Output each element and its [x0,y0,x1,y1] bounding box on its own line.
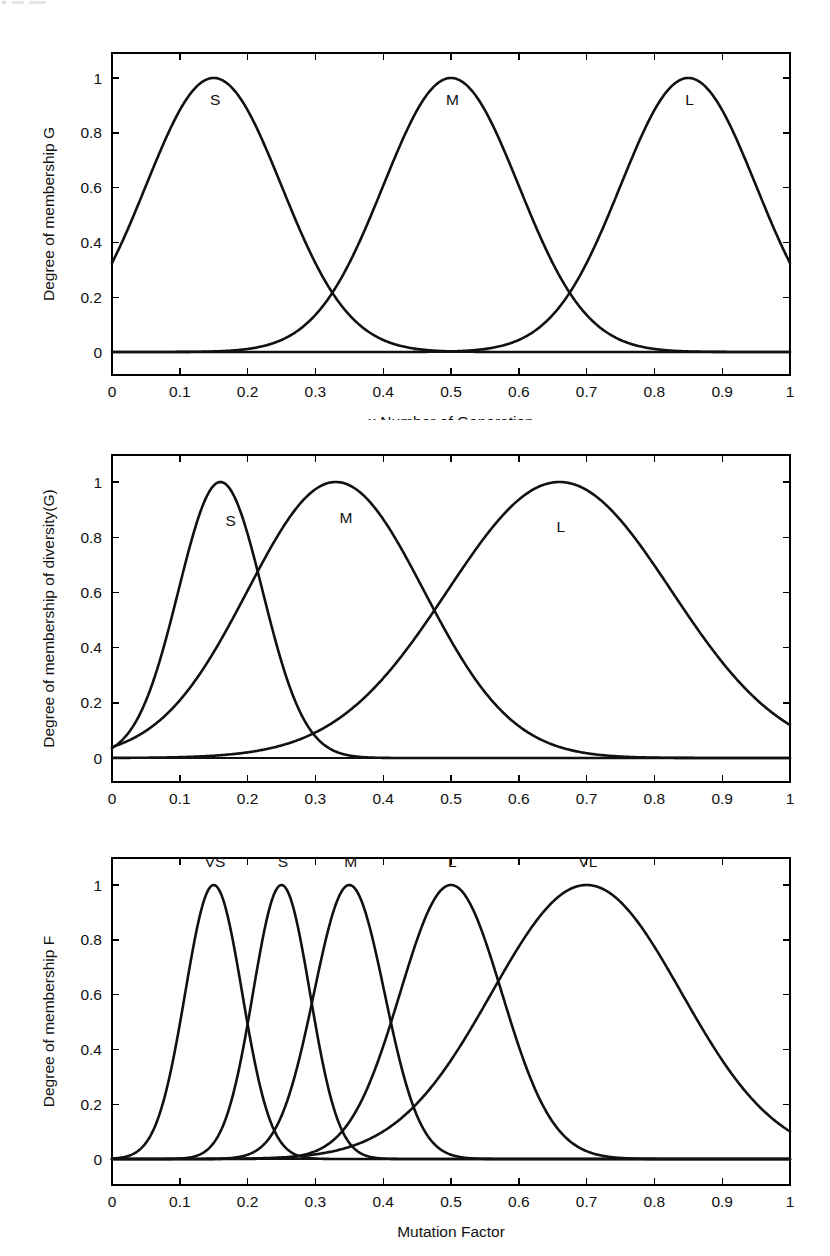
x-tick-label: 0.5 [440,1193,462,1210]
diversity-membership-plot: 00.10.20.30.40.50.60.70.80.9100.20.40.60… [0,400,830,810]
x-tick-label: 0.6 [508,1193,530,1210]
x-tick-label: 0.4 [372,1193,394,1210]
x-tick-label: 0.8 [644,1193,666,1210]
y-tick-label: 0.6 [80,986,102,1003]
y-tick-label: 0.4 [80,639,102,656]
y-axis-label: Degree of membership of diversity(G) [40,489,57,747]
y-tick-label: 0.8 [80,529,102,546]
membership-curve-vl [112,885,790,1159]
x-tick-label: 0.2 [237,383,259,400]
x-tick-label: 0.9 [711,383,733,400]
membership-curve-s [112,885,790,1159]
y-tick-label: 1 [93,474,102,491]
y-axis-label: Degree of membership G [40,127,57,301]
curve-labels: SML [225,509,565,534]
y-tick-label: 0.2 [80,694,102,711]
curve-label-m: M [446,91,459,108]
y-tick-label: 0.6 [80,584,102,601]
x-tick-label: 0.5 [440,383,462,400]
y-tick-label: 0.2 [80,289,102,306]
x-tick-label: 0.9 [711,1193,733,1210]
curve-label-m: M [339,509,352,526]
y-tick-label: 0.8 [80,124,102,141]
x-tick-label: 0.1 [169,1193,191,1210]
membership-curves [112,78,790,352]
x-tick-label: 0.6 [508,383,530,400]
plot-frame [112,455,790,782]
y-tick-label: 0.4 [80,1041,102,1058]
membership-curve-vs [112,885,790,1159]
curve-label-s: S [225,512,235,529]
membership-curve-s [112,482,790,758]
membership-curves [112,482,790,758]
y-tick-label: 0.2 [80,1096,102,1113]
curve-label-s: S [210,91,220,108]
curve-labels: VSSMLVL [205,853,598,870]
curve-label-vl: VL [578,853,597,870]
axis-ticks [112,858,790,1185]
x-tick-label: 0.7 [576,1193,598,1210]
generation-membership-plot: 00.10.20.30.40.50.60.70.80.9100.20.40.60… [0,0,830,420]
curve-label-l: L [448,853,457,870]
figure-page: 00.10.20.30.40.50.60.70.80.9100.20.40.60… [0,0,830,1256]
membership-curve-l [112,885,790,1159]
y-tick-label: 0.6 [80,179,102,196]
axis-ticks [112,455,790,782]
x-tick-label: 0.2 [237,1193,259,1210]
curve-labels: SML [210,91,694,108]
generation-membership-plot-canvas: 00.10.20.30.40.50.60.70.80.9100.20.40.60… [0,0,830,420]
curve-label-l: L [685,91,694,108]
membership-curve-m [112,885,790,1159]
x-tick-label: 0.3 [305,383,327,400]
x-tick-label: 0.8 [644,383,666,400]
x-tick-label: 0 [108,1193,117,1210]
x-tick-label: 0.1 [169,383,191,400]
membership-curve-m [112,482,790,758]
x-tick-label: 0.7 [576,383,598,400]
y-axis-label: Degree of membership F [40,936,57,1107]
y-tick-label: 1 [93,70,102,87]
x-tick-label: 1 [786,1193,795,1210]
membership-curve-l [112,482,790,758]
mutation-factor-membership-plot-canvas: 00.10.20.30.40.50.60.70.80.9100.20.40.60… [0,800,830,1256]
membership-curves [112,885,790,1159]
curve-label-l: L [557,518,566,535]
y-tick-labels: 00.20.40.60.81 [80,474,102,767]
x-tick-labels: 00.10.20.30.40.50.60.70.80.91 [108,1193,795,1210]
y-tick-label: 0.4 [80,234,102,251]
x-tick-label: 0.3 [305,1193,327,1210]
diversity-membership-plot-canvas: 00.10.20.30.40.50.60.70.80.9100.20.40.60… [0,400,830,810]
y-tick-label: 0 [93,344,102,361]
membership-curve-l [112,78,790,352]
curve-label-vs: VS [205,853,226,870]
y-tick-label: 0.8 [80,931,102,948]
mutation-factor-membership-plot: 00.10.20.30.40.50.60.70.80.9100.20.40.60… [0,800,830,1256]
y-tick-labels: 00.20.40.60.81 [80,877,102,1168]
y-tick-labels: 00.20.40.60.81 [80,70,102,361]
y-tick-label: 1 [93,877,102,894]
curve-label-s: S [278,853,288,870]
x-axis-label: Mutation Factor [397,1223,505,1240]
x-tick-label: 1 [786,383,795,400]
x-tick-labels: 00.10.20.30.40.50.60.70.80.91 [108,383,795,400]
curve-label-m: M [344,853,357,870]
x-tick-label: 0 [108,383,117,400]
y-tick-label: 0 [93,750,102,767]
membership-curve-m [112,78,790,352]
y-tick-label: 0 [93,1151,102,1168]
x-tick-label: 0.4 [372,383,394,400]
plot-frame [112,858,790,1185]
membership-curve-s [112,78,790,352]
